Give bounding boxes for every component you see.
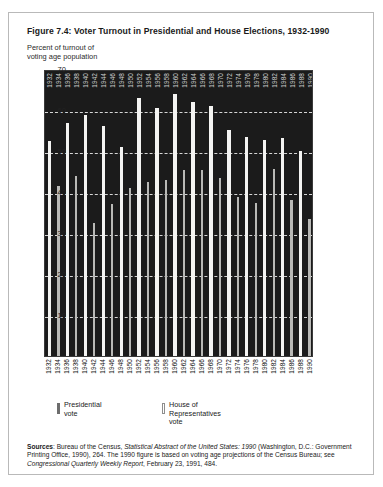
y-tick-60: 60 (26, 106, 66, 115)
x-tick-1974: 1974 (234, 359, 241, 374)
x-tick-1988: 1988 (297, 359, 304, 374)
x-tick-1940: 1940 (81, 359, 88, 374)
bar-1952 (137, 98, 140, 356)
bar-1936 (66, 123, 69, 356)
x-tick-1948: 1948 (117, 359, 124, 374)
x-tick-1970: 1970 (216, 359, 223, 374)
x-tick-1952: 1952 (135, 359, 142, 374)
sources-text-1: : Bureau of the Census, (53, 443, 124, 450)
legend-swatch-presidential-icon (57, 403, 60, 414)
sources-label: Sources (27, 443, 53, 450)
bar-1980 (263, 140, 266, 356)
y-axis-caption-line-2: voting age population (27, 52, 177, 61)
figure-title: Figure 7.4: Voter Turnout in Presidentia… (27, 26, 363, 36)
bar-1940 (84, 115, 87, 356)
x-tick-1932: 1932 (45, 359, 52, 374)
x-tick-1958: 1958 (162, 359, 169, 374)
bar-1988 (299, 151, 302, 356)
chart-plot-area: 1932193419361938194019421944194619481950… (44, 70, 313, 357)
bar-1990 (308, 219, 310, 356)
x-tick-1938: 1938 (72, 359, 79, 374)
bar-1938 (75, 176, 77, 356)
legend-label-house: House of Representatives vote (169, 401, 289, 427)
x-tick-1944: 1944 (99, 359, 106, 374)
x-tick-1990: 1990 (306, 359, 313, 374)
y-axis-caption-line-1: Percent of turnout of (27, 43, 177, 52)
bar-1976 (245, 137, 248, 356)
inside-year-label-1974: 1974 (235, 73, 242, 88)
bar-1978 (255, 203, 257, 356)
bar-1962 (183, 170, 185, 356)
bar-1956 (155, 108, 158, 356)
inside-year-label-1982: 1982 (271, 73, 278, 88)
bar-1948 (120, 147, 123, 357)
inside-year-label-1932: 1932 (46, 73, 53, 88)
figure-card: Figure 7.4: Voter Turnout in Presidentia… (8, 12, 374, 475)
inside-year-label-1990: 1990 (307, 73, 313, 88)
legend-label-house-line-3: vote (169, 417, 183, 426)
bar-1974 (237, 197, 239, 356)
inside-year-label-1944: 1944 (100, 73, 107, 88)
x-tick-1984: 1984 (279, 359, 286, 374)
sources-note: Sources: Bureau of the Census, Statistic… (27, 443, 361, 468)
inside-year-label-1956: 1956 (154, 73, 161, 88)
bar-1960 (173, 94, 176, 356)
inside-year-labels: 1932193419361938194019421944194619481950… (45, 73, 312, 103)
sources-italic-1: Statistical Abstract of the United State… (124, 443, 256, 450)
y-tick-50: 50 (26, 147, 66, 156)
inside-year-label-1950: 1950 (127, 73, 134, 88)
bar-1932 (48, 141, 51, 356)
inside-year-label-1936: 1936 (64, 73, 71, 88)
bar-series-container (45, 71, 312, 356)
inside-year-label-1938: 1938 (73, 73, 80, 88)
bar-1950 (129, 188, 131, 357)
inside-year-label-1970: 1970 (217, 73, 224, 88)
legend-label-presidential: Presidential vote (64, 401, 184, 418)
y-tick-30: 30 (26, 229, 66, 238)
bar-1986 (290, 200, 292, 356)
x-tick-1966: 1966 (198, 359, 205, 374)
y-tick-20: 20 (26, 270, 66, 279)
y-axis-caption: Percent of turnout of voting age populat… (27, 43, 177, 61)
inside-year-label-1968: 1968 (208, 73, 215, 88)
inside-year-label-1972: 1972 (226, 73, 233, 88)
x-tick-1956: 1956 (153, 359, 160, 374)
bar-1984 (281, 138, 284, 356)
x-tick-1954: 1954 (144, 359, 151, 374)
x-tick-1978: 1978 (252, 359, 259, 374)
bar-1944 (102, 126, 105, 356)
inside-year-label-1964: 1964 (190, 73, 197, 88)
inside-year-label-1966: 1966 (199, 73, 206, 88)
x-tick-1960: 1960 (171, 359, 178, 374)
bar-1970 (219, 178, 221, 356)
x-tick-1968: 1968 (207, 359, 214, 374)
bar-1972 (227, 130, 230, 356)
x-tick-1986: 1986 (288, 359, 295, 374)
inside-year-label-1954: 1954 (145, 73, 152, 88)
sources-italic-2: Congressional Quarterly Weekly Report (27, 460, 143, 467)
bar-1946 (111, 204, 113, 356)
sources-text-3: , February 23, 1991, 484. (143, 460, 217, 467)
y-tick-10: 10 (26, 311, 66, 320)
x-tick-1962: 1962 (180, 359, 187, 374)
inside-year-label-1962: 1962 (181, 73, 188, 88)
legend-label-presidential-line-2: vote (64, 409, 78, 418)
bar-1954 (147, 182, 149, 356)
x-tick-1964: 1964 (189, 359, 196, 374)
bar-1958 (165, 180, 167, 356)
chart-legend: Presidential vote House of Representativ… (57, 402, 307, 430)
x-axis-tick-labels: 1932193419361938194019421944194619481950… (44, 359, 313, 389)
bar-1942 (93, 223, 95, 356)
inside-year-label-1960: 1960 (172, 73, 179, 88)
x-tick-1972: 1972 (225, 359, 232, 374)
inside-year-label-1976: 1976 (244, 73, 251, 88)
inside-year-label-1988: 1988 (298, 73, 305, 88)
inside-year-label-1978: 1978 (253, 73, 260, 88)
chart-plot-wrapper: 1932193419361938194019421944194619481950… (44, 70, 313, 357)
inside-year-label-1984: 1984 (280, 73, 287, 88)
bar-1968 (209, 106, 212, 356)
y-tick-40: 40 (26, 188, 66, 197)
inside-year-label-1986: 1986 (289, 73, 296, 88)
inside-year-label-1952: 1952 (136, 73, 143, 88)
x-tick-1976: 1976 (243, 359, 250, 374)
